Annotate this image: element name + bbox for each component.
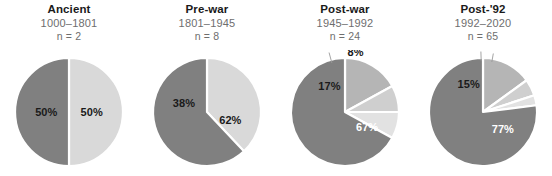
pie-svg: 15%5%3%77% (414, 50, 552, 176)
slice-percent-label: 50% (35, 106, 57, 118)
slice-percent-label: 15% (458, 78, 480, 90)
panel-title: Ancient (0, 3, 138, 17)
panel-sample-size: n = 65 (414, 30, 552, 42)
chart-panel-post-92: Post-'92 1992–2020 n = 65 15%5%3%77% (414, 0, 552, 176)
pie-chart: 38%62% (138, 50, 276, 176)
panel-title: Post-war (276, 3, 414, 17)
pie-chart-figure: Ancient 1000–1801 n = 2 50%50% Pre-war 1… (0, 0, 552, 176)
slice-percent-label: 77% (492, 123, 514, 135)
panel-title: Pre-war (138, 3, 276, 17)
panel-sample-size: n = 8 (138, 30, 276, 42)
pie-svg: 17%8%8%67% (276, 50, 414, 176)
slice-percent-label: 38% (173, 97, 195, 109)
pie-svg: 38%62% (138, 50, 276, 176)
slice-percent-label: 50% (81, 106, 103, 118)
chart-panel-pre-war: Pre-war 1801–1945 n = 8 38%62% (138, 0, 276, 176)
chart-panel-ancient: Ancient 1000–1801 n = 2 50%50% (0, 0, 138, 176)
pie-chart: 17%8%8%67% (276, 50, 414, 176)
chart-panel-post-war: Post-war 1945–1992 n = 24 17%8%8%67% (276, 0, 414, 176)
slice-percent-label: 62% (219, 114, 241, 126)
panel-date-range: 1992–2020 (414, 17, 552, 30)
panel-title: Post-'92 (414, 3, 552, 17)
panel-header: Pre-war 1801–1945 n = 8 (138, 3, 276, 42)
panel-date-range: 1801–1945 (138, 17, 276, 30)
panel-date-range: 1945–1992 (276, 17, 414, 30)
panel-date-range: 1000–1801 (0, 17, 138, 30)
panel-header: Post-'92 1992–2020 n = 65 (414, 3, 552, 42)
panel-header: Ancient 1000–1801 n = 2 (0, 3, 138, 42)
panel-sample-size: n = 24 (276, 30, 414, 42)
pie-chart: 50%50% (0, 50, 138, 176)
slice-percent-label: 8% (347, 50, 363, 58)
panel-sample-size: n = 2 (0, 30, 138, 42)
panel-header: Post-war 1945–1992 n = 24 (276, 3, 414, 42)
pie-svg: 50%50% (0, 50, 138, 176)
slice-percent-label: 17% (318, 80, 340, 92)
pie-chart: 15%5%3%77% (414, 50, 552, 176)
slice-percent-label: 67% (356, 121, 378, 133)
